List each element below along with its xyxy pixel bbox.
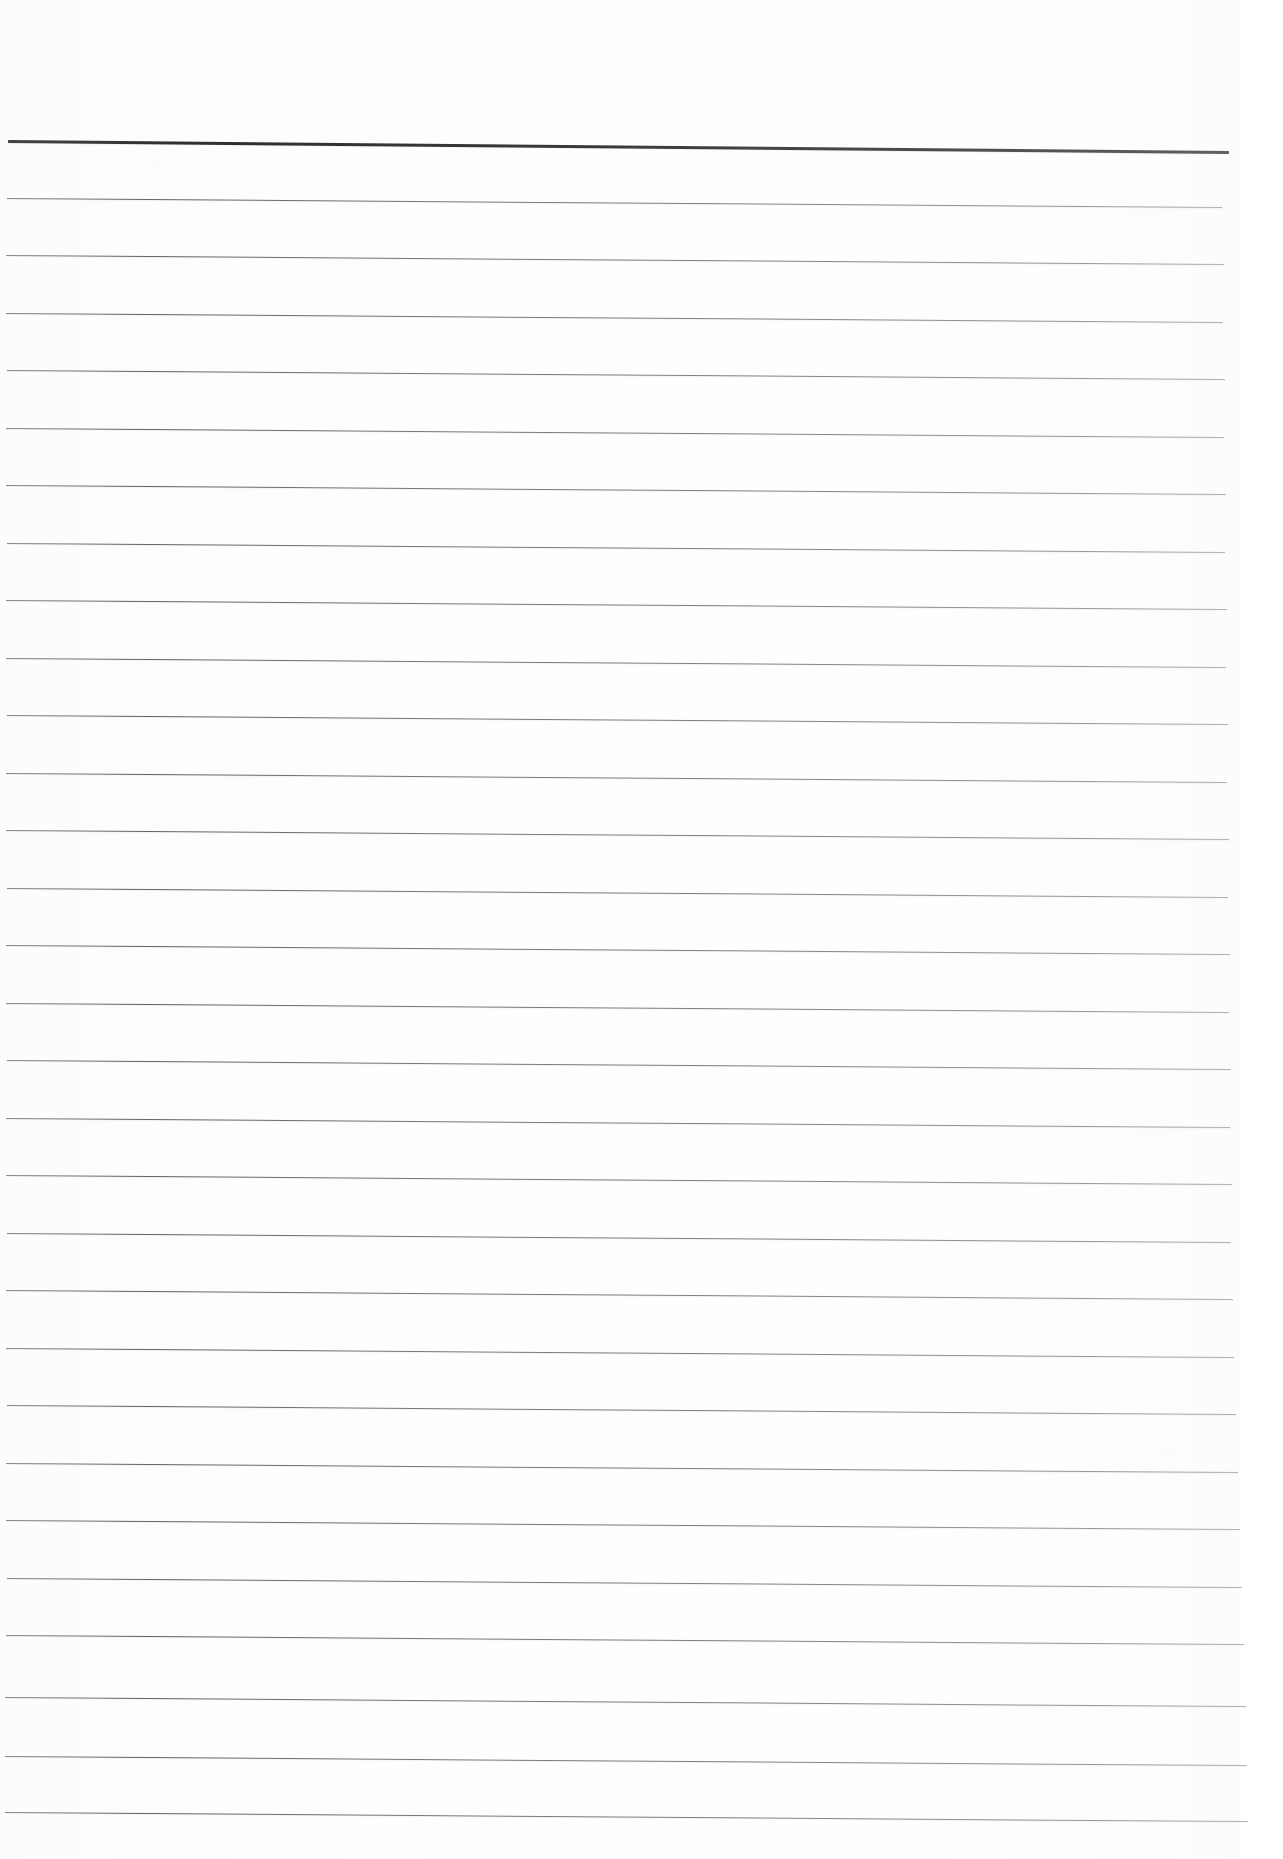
page-right-margin bbox=[1240, 0, 1283, 1859]
scanned-page: A scanned blank sheet of ruled notebook … bbox=[0, 0, 1283, 1859]
